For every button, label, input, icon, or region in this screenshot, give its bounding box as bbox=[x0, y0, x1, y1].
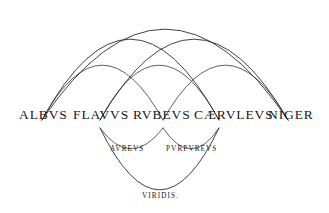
color-diagram: ALBVS FLAVVS RVBEVS CÆRVLEVS NIGER AVREV… bbox=[0, 0, 329, 213]
lower-arc-group bbox=[100, 128, 219, 190]
primary-label-albvs: ALBVS bbox=[19, 108, 68, 122]
tertiary-label-viridis: VIRIDIS. bbox=[142, 193, 179, 200]
arc-flavvs-caervlevs-lower bbox=[100, 128, 219, 190]
primary-label-rvbevs: RVBEVS bbox=[133, 108, 191, 122]
primary-label-niger: NIGER bbox=[268, 108, 314, 122]
primary-label-flavvs: FLAVVS bbox=[73, 108, 129, 122]
secondary-label-pvrpvrevs: PVRPVREVS bbox=[166, 146, 217, 153]
arc-albvs-caervlevs bbox=[42, 39, 219, 120]
secondary-label-avrevs: AVREVS bbox=[110, 146, 144, 153]
primary-label-caervlevs: CÆRVLEVS bbox=[194, 108, 274, 122]
